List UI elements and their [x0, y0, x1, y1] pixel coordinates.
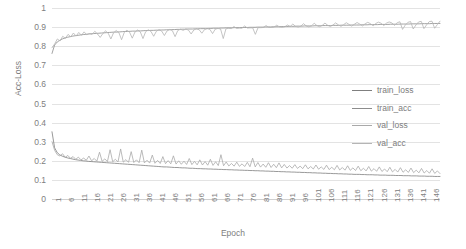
- legend-item-train-acc[interactable]: train_acc: [352, 100, 464, 118]
- chart-legend: train_losstrain_accval_lossval_acc: [352, 82, 464, 152]
- legend-item-label: val_acc: [377, 139, 406, 148]
- x-axis-tick-label: 106: [328, 189, 336, 202]
- x-axis-tick-label: 61: [211, 193, 219, 202]
- x-axis-tick-label: 11: [81, 194, 89, 202]
- y-axis-tick-label: 0.3: [0, 138, 46, 147]
- x-axis-tick-label: 146: [433, 189, 441, 202]
- x-axis-tick-label: 76: [250, 193, 258, 202]
- legend-item-val-loss[interactable]: val_loss: [352, 117, 464, 135]
- x-axis-tick-label: 96: [302, 193, 310, 202]
- y-axis-tick-label: 0: [0, 195, 46, 204]
- x-axis-tick-label: 91: [289, 193, 297, 202]
- legend-item-val-acc[interactable]: val_acc: [352, 135, 464, 153]
- legend-line-icon: [352, 125, 372, 126]
- series-line-val-acc: [52, 21, 440, 48]
- x-axis-tick-label: 121: [367, 189, 375, 202]
- x-axis-tick-label: 131: [394, 189, 402, 202]
- y-axis-tick-label: 0.2: [0, 157, 46, 166]
- x-axis-tick-label: 36: [146, 193, 154, 202]
- x-axis-tick-label: 21: [107, 193, 115, 202]
- legend-line-icon: [352, 108, 372, 109]
- x-axis-tick-label: 141: [420, 189, 428, 202]
- legend-line-icon: [352, 90, 372, 91]
- x-axis-title: Epoch: [0, 228, 466, 238]
- x-axis-tick-label: 66: [224, 193, 232, 202]
- x-axis-tick-label: 1: [55, 198, 63, 202]
- x-axis-tick-label: 111: [341, 190, 349, 202]
- x-axis-tick-label: 116: [354, 189, 362, 202]
- x-axis-tick-label: 71: [237, 193, 245, 202]
- x-axis-tick-label: 126: [381, 189, 389, 202]
- y-axis-tick-label: 0.1: [0, 176, 46, 185]
- legend-item-label: train_loss: [377, 86, 413, 95]
- y-axis-tick-label: 0.9: [0, 23, 46, 32]
- x-axis-tick-label: 101: [315, 189, 323, 202]
- y-axis-tick-label: 0.7: [0, 61, 46, 70]
- x-axis-tick-label: 136: [407, 189, 415, 202]
- x-axis-tick-label: 6: [68, 198, 76, 202]
- legend-item-label: train_acc: [377, 104, 412, 113]
- x-axis-tick-label: 46: [172, 193, 180, 202]
- x-axis-tick-label: 31: [133, 193, 141, 202]
- x-axis-tick-label: 16: [94, 193, 102, 202]
- y-axis-tick-label: 1: [0, 4, 46, 13]
- y-axis-tick-label: 0.8: [0, 42, 46, 51]
- legend-line-icon: [352, 143, 372, 144]
- x-axis-tick-label: 26: [120, 193, 128, 202]
- x-axis-tick-label: 41: [159, 193, 167, 202]
- x-axis-tick-label: 81: [263, 193, 271, 202]
- legend-item-train-loss[interactable]: train_loss: [352, 82, 464, 100]
- x-axis-tick-label: 86: [276, 193, 284, 202]
- x-axis-tick-label: 51: [185, 193, 193, 202]
- legend-item-label: val_loss: [377, 121, 408, 130]
- y-axis-tick-label: 0.6: [0, 80, 46, 89]
- y-axis-tick-label: 0.5: [0, 100, 46, 109]
- series-line-train-acc: [52, 23, 440, 53]
- x-axis-tick-label: 56: [198, 193, 206, 202]
- y-axis-tick-label: 0.4: [0, 119, 46, 128]
- line-chart: Acc-Loss 10.90.80.70.60.50.40.30.20.10 1…: [0, 0, 466, 249]
